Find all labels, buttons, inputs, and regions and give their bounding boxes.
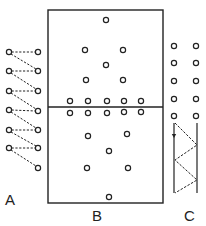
player-circle (35, 127, 40, 132)
player-circle (106, 194, 111, 199)
player-circle (120, 77, 125, 82)
player-circle (193, 43, 198, 48)
player-circle (193, 78, 198, 83)
player-circle (106, 148, 111, 153)
player-circle (171, 96, 176, 101)
zigzag-path (175, 123, 197, 193)
panel-b-court (48, 10, 163, 203)
dashed-diagonal-line (11, 54, 36, 69)
player-circle (121, 98, 126, 103)
player-circle (171, 60, 176, 65)
player-circle (120, 47, 125, 52)
player-circle (193, 96, 198, 101)
dashed-diagonal-line (11, 132, 36, 146)
player-circle (35, 88, 40, 93)
player-circle (6, 145, 11, 150)
player-circle (171, 78, 176, 83)
arrow-down-icon (172, 134, 176, 138)
player-circle (6, 68, 11, 73)
player-circle (138, 98, 143, 103)
player-circle (67, 98, 72, 103)
player-circle (6, 88, 11, 93)
label-a: A (5, 192, 15, 207)
player-circle (6, 127, 11, 132)
player-circle (193, 113, 198, 118)
player-circle (103, 17, 108, 22)
player-circle (35, 108, 40, 113)
label-c: C (184, 208, 195, 223)
player-circle (35, 145, 40, 150)
panel-a-pairs (6, 49, 40, 170)
player-circle (104, 110, 109, 115)
panel-c-zigzag (171, 43, 198, 193)
player-circle (6, 49, 11, 54)
player-circle (104, 98, 109, 103)
player-circle (125, 165, 130, 170)
player-circle (83, 77, 88, 82)
dashed-diagonal-line (11, 73, 36, 89)
label-b: B (92, 208, 102, 223)
dashed-diagonal-line (11, 150, 36, 166)
player-circle (124, 131, 129, 136)
player-circle (35, 68, 40, 73)
player-circle (85, 98, 90, 103)
player-circle (35, 49, 40, 54)
player-circle (138, 109, 143, 114)
player-circle (82, 47, 87, 52)
player-circle (171, 113, 176, 118)
player-circle (85, 133, 90, 138)
dashed-horizontal-line (12, 110, 36, 111)
player-circle (84, 165, 89, 170)
dashed-diagonal-line (11, 112, 36, 128)
player-circle (103, 62, 108, 67)
player-circle (171, 43, 176, 48)
court-formation-diagram (0, 0, 206, 226)
player-circle (6, 107, 11, 112)
player-circle (193, 60, 198, 65)
player-circle (85, 110, 90, 115)
player-circle (67, 110, 72, 115)
dashed-diagonal-line (11, 93, 36, 109)
player-circle (121, 109, 126, 114)
player-circle (35, 165, 40, 170)
